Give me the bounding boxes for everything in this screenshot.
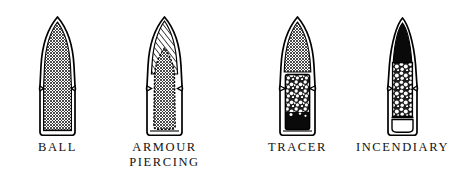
bullet-cell-incendiary: INCENDIARY <box>345 0 460 180</box>
bullet-cell-ball: BALL <box>0 0 115 180</box>
bullet-label-tracer: TRACER <box>240 140 355 155</box>
bullet-cell-armour-piercing: ARMOUR PIERCING <box>107 0 222 180</box>
bullet-cross-section-figure: BALL <box>0 0 460 180</box>
tracer-composition <box>286 75 309 112</box>
tracer-bullet-diagram <box>240 8 355 136</box>
bullet-label-armour-piercing: ARMOUR PIERCING <box>107 140 222 170</box>
tracer-igniter-charge <box>286 112 309 129</box>
bullet-label-incendiary: INCENDIARY <box>345 140 460 155</box>
incendiary-composition <box>393 63 412 116</box>
bullet-cell-tracer: TRACER <box>240 0 355 180</box>
incendiary-bullet-diagram <box>345 8 460 136</box>
bullet-label-ball: BALL <box>0 140 115 155</box>
ball-bullet-diagram <box>0 8 115 136</box>
incendiary-base-cavity <box>392 120 413 133</box>
armour-piercing-bullet-diagram <box>107 8 222 136</box>
